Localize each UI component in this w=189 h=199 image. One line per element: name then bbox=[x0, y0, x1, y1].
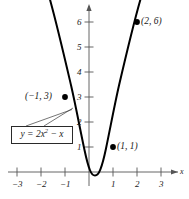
equation-lhs: y = 2 bbox=[21, 129, 41, 139]
point-label-2-6: (2, 6) bbox=[141, 17, 162, 27]
equation-text: y = 2x2 − x bbox=[21, 130, 64, 140]
y-tick-label-6: 6 bbox=[77, 18, 82, 27]
parabola-figure: −3 −2 −1 1 2 3 1 2 3 4 5 6 x (−1, 3) (1,… bbox=[0, 0, 189, 199]
point-label-1-1: (1, 1) bbox=[117, 142, 138, 152]
x-tick-label-1: 1 bbox=[111, 180, 116, 189]
equation-rhs: − x bbox=[48, 129, 63, 139]
marked-points bbox=[62, 19, 140, 150]
callout-leader-line bbox=[26, 108, 73, 126]
point-1-1[interactable] bbox=[110, 144, 116, 150]
x-tick-label-3: 3 bbox=[159, 180, 164, 189]
x-tick-label-neg3: −3 bbox=[12, 180, 23, 189]
y-tick-label-3: 3 bbox=[77, 93, 82, 102]
y-tick-label-1: 1 bbox=[77, 143, 82, 152]
point-2-6[interactable] bbox=[134, 19, 140, 25]
equation-callout-box: y = 2x2 − x bbox=[11, 126, 73, 144]
y-tick-label-2: 2 bbox=[77, 118, 82, 127]
x-tick-label-neg1: −1 bbox=[60, 180, 71, 189]
y-tick-label-4: 4 bbox=[77, 68, 82, 77]
x-axis-label: x bbox=[180, 167, 184, 176]
x-tick-label-2: 2 bbox=[135, 180, 140, 189]
x-tick-label-neg2: −2 bbox=[36, 180, 47, 189]
point-minus1-3[interactable] bbox=[62, 94, 68, 100]
y-tick-label-5: 5 bbox=[77, 43, 82, 52]
point-label-minus1-3: (−1, 3) bbox=[25, 92, 52, 102]
